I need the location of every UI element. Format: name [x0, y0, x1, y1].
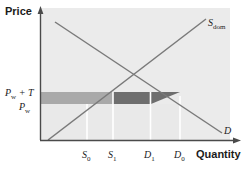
- svg-text:D1: D1: [143, 149, 155, 163]
- pw-plus-t-suffix: + T: [16, 87, 35, 98]
- pw-sub: w: [25, 107, 31, 115]
- demand-label-base: D: [223, 125, 232, 136]
- x-tick-d0-sub: 0: [181, 155, 185, 163]
- x-tick-d1: D1: [143, 149, 155, 163]
- supply-demand-chart: Price Quantity Pw + T Pw Sdom D S0: [0, 0, 250, 172]
- quantity-axis-arrow: [233, 138, 241, 144]
- x-tick-d0: D0: [173, 149, 185, 163]
- quantity-axis-title: Quantity: [196, 148, 241, 160]
- x-tick-s1: S1: [108, 149, 117, 163]
- pw-plus-t-base: P: [4, 87, 11, 98]
- chart-canvas: Price Quantity Pw + T Pw Sdom D S0: [0, 0, 250, 172]
- x-tick-s1-sub: 1: [113, 155, 117, 163]
- price-label-pw: Pw: [18, 101, 31, 115]
- tax-revenue-rect: [113, 92, 150, 104]
- svg-text:Pw + T: Pw + T: [4, 87, 35, 101]
- x-tick-d1-sub: 1: [151, 155, 155, 163]
- supply-label-sub: dom: [213, 23, 226, 31]
- price-label-pw-plus-t: Pw + T: [4, 87, 35, 101]
- x-tick-s0-sub: 0: [87, 155, 91, 163]
- svg-text:D0: D0: [173, 149, 185, 163]
- svg-text:Pw: Pw: [18, 101, 31, 115]
- x-tick-s0: S0: [82, 149, 91, 163]
- svg-text:S0: S0: [82, 149, 91, 163]
- svg-text:S1: S1: [108, 149, 117, 163]
- demand-curve-label: D: [223, 125, 232, 136]
- below-pw-block: [40, 104, 180, 140]
- pw-base: P: [18, 101, 25, 112]
- price-axis-title: Price: [5, 5, 32, 17]
